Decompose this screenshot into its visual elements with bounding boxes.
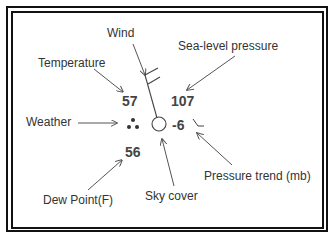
temperature-value: 57 (122, 94, 138, 108)
sky-cover-label: Sky cover (145, 190, 198, 202)
sky-cover-circle-icon (152, 117, 166, 131)
sea-level-pressure-arrow (187, 56, 235, 90)
pressure-trend-icon (193, 119, 204, 126)
weather-label: Weather (26, 116, 71, 128)
wind-label: Wind (107, 27, 134, 39)
weather-rain-dots-icon (127, 118, 139, 129)
pressure-change-value: -6 (172, 118, 184, 132)
sea-level-pressure-label: Sea-level pressure (178, 40, 278, 52)
sea-level-pressure-value: 107 (171, 94, 194, 108)
wind-barb-icon (145, 68, 160, 118)
wind-arrow (133, 44, 145, 75)
dew-point-value: 56 (125, 145, 141, 159)
temperature-label: Temperature (38, 57, 105, 69)
dew-point-label: Dew Point(F) (43, 194, 113, 206)
pressure-trend-arrow (197, 133, 232, 165)
dew-point-arrow (88, 160, 122, 190)
temperature-arrow (94, 69, 123, 92)
pressure-trend-label: Pressure trend (mb) (204, 170, 311, 182)
sky-cover-arrow (162, 139, 174, 186)
